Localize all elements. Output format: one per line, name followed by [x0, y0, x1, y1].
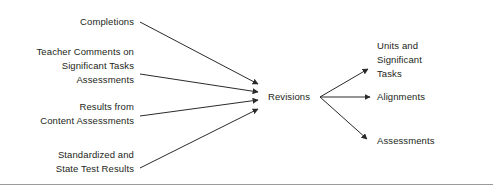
connector-revisions-to-assessments: [320, 97, 367, 139]
input-node-content-assessment-results: Results from Content Assessments: [4, 100, 134, 128]
input-node-standardized-test-results: Standardized and State Test Results: [4, 148, 134, 176]
output-node-assessments: Assessments: [377, 134, 487, 148]
connector-standardized-to-revisions: [140, 109, 258, 168]
input-node-completions: Completions: [14, 15, 134, 29]
output-node-units-and-significant-tasks: Units and Significant Tasks: [377, 39, 487, 81]
hub-node-revisions: Revisions: [262, 90, 316, 104]
input-node-teacher-comments: Teacher Comments on Significant Tasks As…: [4, 45, 134, 87]
connector-completions-to-revisions: [140, 22, 258, 84]
flow-diagram: Completions Teacher Comments on Signific…: [0, 0, 493, 196]
connector-revisions-to-units: [320, 69, 368, 97]
connector-results-to-revisions: [140, 100, 258, 116]
output-node-alignments: Alignments: [377, 90, 487, 104]
connector-teacher-to-revisions: [140, 74, 258, 92]
